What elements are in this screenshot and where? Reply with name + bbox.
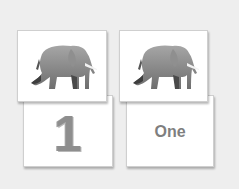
elephant-picture-card-2[interactable]: [119, 30, 208, 102]
elephant-picture-card-1[interactable]: [17, 30, 107, 102]
elephant-icon: [27, 39, 99, 95]
word-text: One: [127, 96, 213, 166]
numeral-text: 1: [24, 102, 112, 166]
numeral-card[interactable]: 1: [23, 95, 113, 167]
word-card[interactable]: One: [126, 95, 214, 167]
elephant-icon: [129, 39, 201, 95]
